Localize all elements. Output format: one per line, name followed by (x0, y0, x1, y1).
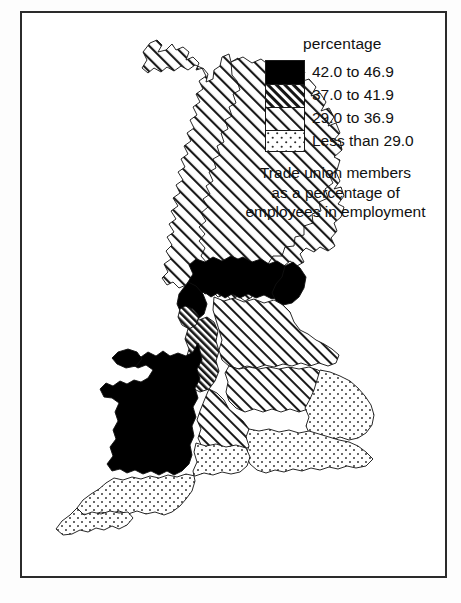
legend-swatch-less-than-29-0 (266, 130, 304, 152)
caption-line-3: employees in employment (228, 202, 443, 222)
legend-title: percentage (303, 35, 382, 53)
figure-caption: Trade union members as a percentage of e… (228, 163, 443, 222)
legend-swatch-box (265, 60, 305, 152)
legend-label-37-0-to-41-9: 37.0 to 41.9 (312, 86, 394, 104)
legend-swatch-37-0-to-41-9 (266, 84, 304, 107)
legend-label-less-than-29-0: Less than 29.0 (312, 132, 414, 150)
map-region-wales (100, 343, 202, 475)
map-region-yorkshire-and-humberside (213, 297, 339, 369)
caption-line-2: as a percentage of (228, 183, 443, 203)
legend-label-29-0-to-36-9: 29.0 to 36.9 (312, 109, 394, 127)
caption-line-1: Trade union members (228, 163, 443, 183)
map-figure: percentage 42.0 to 46.9 37.0 to 41.9 29.… (0, 0, 461, 603)
legend-swatch-29-0-to-36-9 (266, 107, 304, 130)
legend-label-42-0-to-46-9: 42.0 to 46.9 (312, 63, 394, 81)
legend-swatch-42-0-to-46-9 (266, 61, 304, 84)
